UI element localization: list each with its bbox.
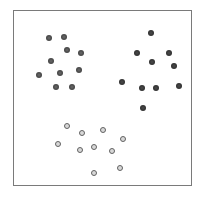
cluster-bottom-point [79,130,85,136]
cluster-top-left-point [36,72,42,78]
cluster-top-left-point [46,35,52,41]
cluster-top-left-point [69,84,75,90]
cluster-top-left-point [61,34,67,40]
cluster-top-right-point [148,30,154,36]
cluster-top-left-point [53,84,59,90]
cluster-top-right-point [153,85,159,91]
cluster-bottom-point [100,127,106,133]
cluster-top-right-point [166,50,172,56]
cluster-top-right-point [119,79,125,85]
cluster-bottom-point [117,165,123,171]
cluster-top-right-point [140,105,146,111]
cluster-bottom-point [91,144,97,150]
cluster-bottom-point [120,136,126,142]
cluster-top-right-point [139,85,145,91]
scatter-figure [0,0,202,198]
cluster-top-right-point [171,63,177,69]
cluster-bottom-point [91,170,97,176]
cluster-top-left-point [48,58,54,64]
cluster-top-right-point [176,83,182,89]
cluster-top-right-point [134,50,140,56]
cluster-bottom-point [64,123,70,129]
cluster-bottom-point [109,148,115,154]
cluster-top-left-point [57,70,63,76]
cluster-top-left-point [78,50,84,56]
plot-frame [13,10,192,186]
cluster-top-right-point [149,59,155,65]
cluster-top-left-point [76,67,82,73]
cluster-top-left-point [64,47,70,53]
cluster-bottom-point [77,147,83,153]
cluster-bottom-point [55,141,61,147]
